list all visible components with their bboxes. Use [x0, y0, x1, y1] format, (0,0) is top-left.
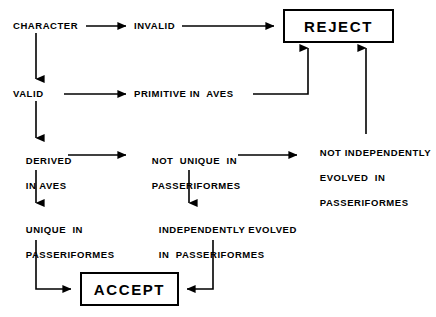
node-derived-in-aves-line1: DERIVED: [26, 155, 72, 166]
node-character: CHARACTER: [13, 20, 78, 33]
node-not-unique-in-passeriformes: NOT UNIQUE IN PASSERIFORMES: [139, 142, 241, 205]
node-not-unique-line1: NOT UNIQUE IN: [152, 155, 237, 166]
flowchart-diagram: CHARACTER INVALID VALID PRIMITIVE IN AVE…: [0, 0, 436, 317]
terminal-accept-label: ACCEPT: [94, 281, 165, 298]
node-unique-in-passeriformes: UNIQUE IN PASSERIFORMES: [13, 211, 115, 274]
node-unique-line1: UNIQUE IN: [26, 224, 83, 235]
node-independently-evolved-line2: IN PASSERIFORMES: [159, 249, 265, 260]
node-not-independently-evolved: NOT INDEPENDENTLY EVOLVED IN PASSERIFORM…: [307, 134, 431, 222]
terminal-reject-box: REJECT: [283, 9, 394, 43]
node-unique-line2: PASSERIFORMES: [26, 249, 115, 260]
edge-primitive-to-reject: [253, 48, 308, 94]
node-not-independently-line1: NOT INDEPENDENTLY: [320, 147, 431, 158]
node-derived-in-aves: DERIVED IN AVES: [13, 142, 72, 205]
node-independently-evolved-in-passeriformes: INDEPENDENTLY EVOLVED IN PASSERIFORMES: [146, 211, 297, 274]
node-invalid: INVALID: [134, 20, 175, 33]
node-not-independently-line2: EVOLVED IN: [320, 172, 386, 183]
node-valid: VALID: [13, 88, 44, 101]
terminal-reject-label: REJECT: [304, 18, 373, 35]
node-not-unique-line2: PASSERIFORMES: [152, 180, 241, 191]
node-independently-evolved-line1: INDEPENDENTLY EVOLVED: [159, 224, 297, 235]
node-not-independently-line3: PASSERIFORMES: [320, 197, 409, 208]
terminal-accept-box: ACCEPT: [80, 272, 179, 306]
node-derived-in-aves-line2: IN AVES: [26, 180, 67, 191]
node-primitive-in-aves: PRIMITIVE IN AVES: [134, 88, 234, 101]
